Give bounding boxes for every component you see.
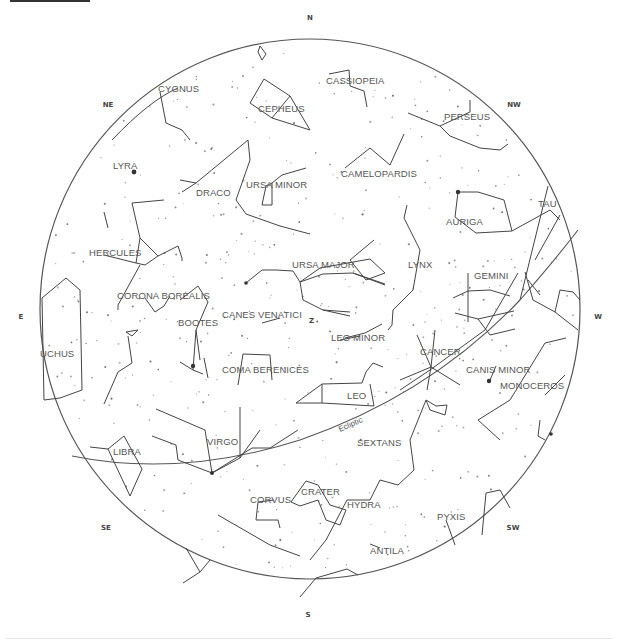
- direction-label-ne: NE: [103, 101, 114, 109]
- constellation-label-antila[interactable]: ANTILA: [370, 545, 404, 556]
- constellation-label-corona-borealis[interactable]: CORONA BOREALIS: [117, 290, 210, 301]
- constellation-label-hydra[interactable]: HYDRA: [347, 499, 381, 510]
- sky-chart[interactable]: Ecliptic: [0, 0, 618, 641]
- direction-label-w: W: [594, 313, 602, 321]
- constellation-label-canis-minor[interactable]: CANIS MINOR: [466, 364, 530, 375]
- constellation-label-lyra[interactable]: LYRA: [113, 160, 138, 171]
- constellation-label-perseus[interactable]: PERSEUS: [444, 111, 490, 122]
- bottom-divider: [6, 638, 612, 639]
- constellation-label-draco[interactable]: DRACO: [196, 187, 231, 198]
- constellation-label-auriga[interactable]: AURIGA: [446, 216, 484, 227]
- constellation-label-cancer[interactable]: CANCER: [420, 346, 461, 357]
- constellation-label-monoceros[interactable]: MONOCEROS: [500, 380, 564, 391]
- constellation-label-camelopardis[interactable]: CAMELOPARDIS: [341, 168, 417, 179]
- direction-label-se: SE: [101, 524, 111, 532]
- direction-label-e: E: [19, 313, 24, 321]
- constellation-label-ursa-minor[interactable]: URSA MINOR: [246, 179, 307, 190]
- constellation-label-crater[interactable]: CRATER: [301, 486, 340, 497]
- constellation-label-pyxis[interactable]: PYXIS: [437, 511, 466, 522]
- constellation-label-ophiuchus[interactable]: UCHUS: [40, 348, 74, 359]
- constellation-label-canes-venatici[interactable]: CANES VENATICI: [222, 309, 302, 320]
- constellation-label-tau[interactable]: TAU: [538, 198, 557, 209]
- constellation-label-cassiopeia[interactable]: CASSIOPEIA: [326, 75, 385, 86]
- constellation-label-hercules[interactable]: HERCULES: [89, 247, 142, 258]
- constellation-label-leo-minor[interactable]: LEO MINOR: [331, 332, 385, 343]
- constellation-label-cepheus[interactable]: CEPHEUS: [258, 103, 305, 114]
- constellation-label-lynx[interactable]: LYNX: [408, 259, 433, 270]
- constellation-label-bootes[interactable]: BOOTES: [178, 317, 218, 328]
- constellation-label-cygnus[interactable]: CYGNUS: [158, 83, 199, 94]
- constellation-label-libra[interactable]: LIBRA: [113, 446, 142, 457]
- constellation-label-ursa-major[interactable]: URSA MAJOR: [292, 259, 355, 270]
- direction-label-sw: SW: [507, 524, 520, 532]
- constellation-label-leo[interactable]: LEO: [347, 390, 366, 401]
- constellation-label-sextans[interactable]: SEXTANS: [357, 437, 401, 448]
- constellation-label-virgo[interactable]: VIRGO: [207, 436, 238, 447]
- direction-label-s: S: [305, 611, 310, 619]
- constellation-label-gemini[interactable]: GEMINI: [474, 270, 508, 281]
- ecliptic-label: Ecliptic: [337, 415, 364, 434]
- direction-label-nw: NW: [507, 101, 521, 109]
- constellation-label-corvus[interactable]: CORVUS: [250, 494, 291, 505]
- constellation-label-coma-berenices[interactable]: COMA BERENICES: [222, 364, 309, 375]
- constellation-labels: CYGNUSCASSIOPEIACEPHEUSPERSEUSLYRADRACOU…: [40, 75, 564, 556]
- zenith-marker: Z: [309, 317, 314, 325]
- direction-label-n: N: [307, 14, 313, 22]
- horizon-circle: [40, 39, 580, 579]
